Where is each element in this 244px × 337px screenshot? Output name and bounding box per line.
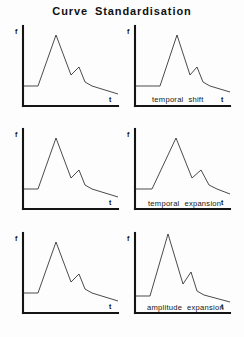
panel-original-middle-left: f t — [14, 127, 122, 224]
panel-temporal-expansion: f t — [126, 127, 234, 224]
plot-temporal-expansion: f t — [126, 127, 234, 224]
curve-path — [135, 138, 230, 194]
plot-amplitude-expansion: f t — [126, 231, 234, 328]
x-axis-label: t — [221, 96, 224, 103]
panel-amplitude-expansion: f t — [126, 231, 234, 328]
x-axis-label: t — [109, 303, 112, 310]
panel-original-bottom-left: f t — [14, 231, 122, 328]
caption-amplitude-expansion: amplitude expansion — [147, 303, 224, 312]
x-axis-label: t — [109, 199, 112, 206]
y-axis-label: f — [15, 28, 18, 35]
curve-path — [135, 234, 230, 302]
x-axis-label: t — [109, 96, 112, 103]
curve-path — [23, 242, 118, 301]
x-axis-label: t — [221, 199, 224, 206]
plot-original-top-left: f t — [14, 24, 122, 121]
caption-temporal-shift: temporal shift — [152, 95, 204, 104]
y-axis-label: f — [127, 28, 130, 35]
y-axis-label: f — [15, 131, 18, 138]
plot-original-middle-left: f t — [14, 127, 122, 224]
figure-canvas: Curve Standardisation f t f t temporal s… — [0, 0, 244, 337]
curve-path — [23, 35, 118, 94]
panel-temporal-shift: f t — [126, 24, 234, 121]
curve-path — [135, 35, 230, 92]
y-axis-label: f — [15, 235, 18, 242]
y-axis-label: f — [127, 131, 130, 138]
figure-title: Curve Standardisation — [0, 5, 244, 17]
panel-original-top-left: f t — [14, 24, 122, 121]
caption-temporal-expansion: temporal expansion — [148, 199, 221, 208]
curve-path — [23, 138, 118, 197]
plot-original-bottom-left: f t — [14, 231, 122, 328]
plot-temporal-shift: f t — [126, 24, 234, 121]
y-axis-label: f — [127, 235, 130, 242]
